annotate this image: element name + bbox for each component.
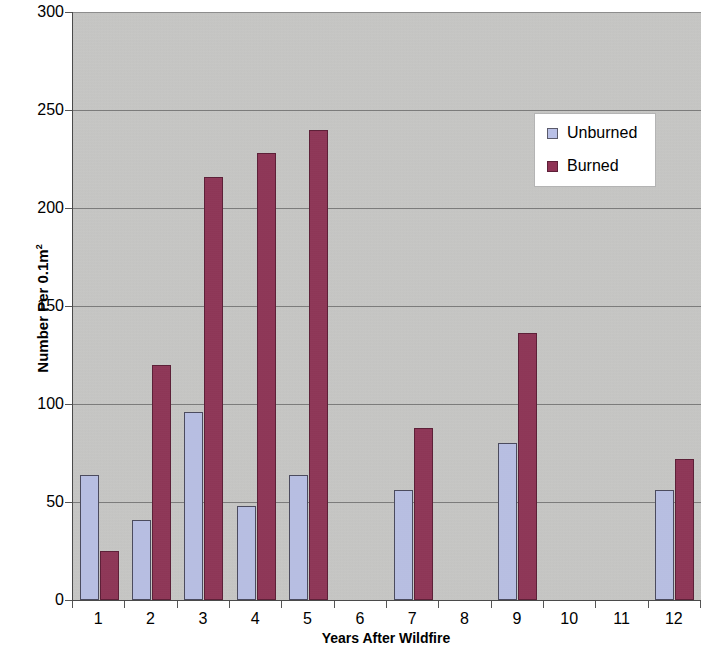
bar-group: [439, 12, 491, 600]
bar-group: [649, 12, 701, 600]
legend-item-burned: Burned: [547, 158, 641, 174]
x-tick-label: 11: [602, 611, 642, 627]
bars-layer: [73, 12, 701, 600]
bar-group: [544, 12, 596, 600]
bar-burned-year-3: [204, 177, 223, 600]
x-tick-mark: [177, 601, 178, 608]
bar-burned-year-1: [100, 551, 119, 600]
x-tick-mark: [543, 601, 544, 608]
bar-group: [335, 12, 387, 600]
bar-unburned-year-7: [394, 490, 413, 600]
y-tick-mark: [65, 404, 72, 405]
x-tick-mark: [700, 601, 701, 608]
y-tick-label: 300: [4, 4, 64, 20]
plot-area: [72, 12, 701, 601]
x-tick-label: 4: [235, 611, 275, 627]
bar-burned-year-7: [414, 428, 433, 600]
bar-unburned-year-3: [184, 412, 203, 600]
bar-unburned-year-5: [289, 475, 308, 600]
bar-unburned-year-4: [237, 506, 256, 600]
legend-item-unburned: Unburned: [547, 125, 641, 141]
x-axis-title: Years After Wildfire: [72, 630, 700, 646]
x-tick-mark: [72, 601, 73, 608]
bar-unburned-year-9: [498, 443, 517, 600]
y-tick-mark: [65, 306, 72, 307]
bar-unburned-year-1: [80, 475, 99, 600]
x-tick-label: 12: [654, 611, 694, 627]
y-axis-ticks: 050100150200250300: [0, 0, 72, 652]
x-tick-label: 5: [288, 611, 328, 627]
y-tick-mark: [65, 110, 72, 111]
bar-unburned-year-12: [655, 490, 674, 600]
bar-burned-year-2: [152, 365, 171, 600]
bar-unburned-year-2: [132, 520, 151, 600]
bar-group: [178, 12, 230, 600]
y-tick-label: 0: [4, 592, 64, 608]
x-tick-mark: [595, 601, 596, 608]
legend-swatch-unburned-icon: [547, 128, 558, 139]
legend-label-burned: Burned: [567, 158, 619, 174]
y-tick-label: 200: [4, 200, 64, 216]
y-tick-mark: [65, 600, 72, 601]
bar-burned-year-9: [518, 333, 537, 600]
x-tick-mark: [648, 601, 649, 608]
bar-group: [73, 12, 125, 600]
bar-group: [125, 12, 177, 600]
bar-group: [230, 12, 282, 600]
y-tick-label: 50: [4, 494, 64, 510]
legend-label-unburned: Unburned: [567, 125, 637, 141]
x-tick-label: 1: [78, 611, 118, 627]
bar-burned-year-12: [675, 459, 694, 600]
x-tick-mark: [334, 601, 335, 608]
x-tick-label: 8: [445, 611, 485, 627]
y-tick-label: 250: [4, 102, 64, 118]
x-tick-mark: [229, 601, 230, 608]
y-tick-label: 100: [4, 396, 64, 412]
y-tick-mark: [65, 12, 72, 13]
bar-group: [596, 12, 648, 600]
x-tick-mark: [491, 601, 492, 608]
x-tick-label: 9: [497, 611, 537, 627]
bar-chart: Number Per 0.1m2 050100150200250300 1234…: [0, 0, 709, 652]
bar-burned-year-4: [257, 153, 276, 600]
bar-group: [387, 12, 439, 600]
x-tick-label: 2: [131, 611, 171, 627]
bar-burned-year-5: [309, 130, 328, 600]
x-tick-mark: [386, 601, 387, 608]
x-tick-label: 7: [392, 611, 432, 627]
y-tick-label: 150: [4, 298, 64, 314]
y-tick-mark: [65, 502, 72, 503]
bar-group: [492, 12, 544, 600]
legend-swatch-burned-icon: [547, 161, 558, 172]
x-tick-mark: [124, 601, 125, 608]
x-tick-label: 6: [340, 611, 380, 627]
x-tick-mark: [281, 601, 282, 608]
x-tick-mark: [438, 601, 439, 608]
x-tick-label: 3: [183, 611, 223, 627]
x-tick-label: 10: [549, 611, 589, 627]
bar-group: [282, 12, 334, 600]
legend: Unburned Burned: [534, 113, 656, 187]
y-tick-mark: [65, 208, 72, 209]
